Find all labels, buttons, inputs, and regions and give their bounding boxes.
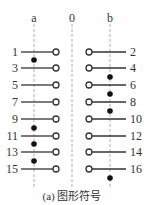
terminal-label-4: 4 <box>130 61 136 75</box>
terminal-label-2: 2 <box>130 45 136 59</box>
terminal-circle-icon <box>53 166 59 172</box>
terminal-circle-icon <box>86 116 92 122</box>
terminal-circle-icon <box>86 149 92 155</box>
terminal-circle-icon <box>53 49 59 55</box>
terminal-label-12: 12 <box>130 129 142 143</box>
terminal-label-15: 15 <box>6 162 18 176</box>
closed-contact-dot-icon <box>107 108 113 114</box>
terminal-label-11: 11 <box>6 129 18 143</box>
terminal-label-5: 5 <box>12 78 18 92</box>
terminal-label-7: 7 <box>12 95 18 109</box>
terminal-circle-icon <box>53 65 59 71</box>
position-label-b: b <box>107 11 113 25</box>
terminal-circle-icon <box>86 65 92 71</box>
closed-contact-dot-icon <box>107 175 113 181</box>
terminal-circle-icon <box>86 49 92 55</box>
closed-contact-dot-icon <box>31 125 37 131</box>
terminal-circle-icon <box>53 99 59 105</box>
closed-contact-dot-icon <box>31 141 37 147</box>
closed-contact-dot-icon <box>31 158 37 164</box>
closed-contact-dot-icon <box>107 74 113 80</box>
closed-contact-dot-icon <box>107 91 113 97</box>
terminal-label-14: 14 <box>130 145 142 159</box>
terminal-label-3: 3 <box>12 61 18 75</box>
figure-caption: (a) 图形符号 <box>43 190 102 203</box>
position-label-a: a <box>31 11 37 25</box>
terminal-circle-icon <box>53 82 59 88</box>
terminal-label-6: 6 <box>130 78 136 92</box>
terminal-label-9: 9 <box>12 112 18 126</box>
terminal-label-1: 1 <box>12 45 18 59</box>
terminal-circle-icon <box>86 133 92 139</box>
terminal-circle-icon <box>86 99 92 105</box>
terminal-label-13: 13 <box>6 145 18 159</box>
terminal-circle-icon <box>53 116 59 122</box>
terminal-circle-icon <box>86 82 92 88</box>
terminal-label-10: 10 <box>130 112 142 126</box>
terminal-circle-icon <box>86 166 92 172</box>
closed-contact-dot-icon <box>31 57 37 63</box>
terminal-circle-icon <box>53 133 59 139</box>
switch-contact-diagram: a0b13579111315246810121416(a) 图形符号 <box>0 0 151 205</box>
terminal-label-16: 16 <box>130 162 142 176</box>
terminal-circle-icon <box>53 149 59 155</box>
position-label-0: 0 <box>69 11 75 25</box>
terminal-label-8: 8 <box>130 95 136 109</box>
